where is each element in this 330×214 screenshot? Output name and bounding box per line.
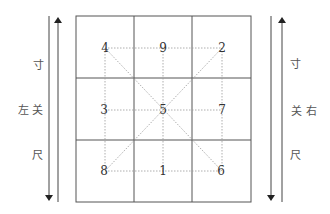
right-guan-label: 关 bbox=[291, 104, 302, 118]
cell-number: 6 bbox=[217, 164, 225, 178]
cell-number: 7 bbox=[218, 103, 226, 117]
right-cun-label: 寸 bbox=[290, 57, 301, 71]
cell-number: 1 bbox=[159, 164, 167, 178]
left-cun-label: 寸 bbox=[33, 58, 44, 72]
left-chi-label: 尺 bbox=[32, 149, 43, 162]
left-guan-label: 关 bbox=[32, 103, 43, 117]
cell-number: 3 bbox=[100, 103, 108, 117]
left-side-label: 左 bbox=[18, 104, 29, 117]
cell-number: 5 bbox=[159, 103, 167, 117]
lo-shu-pulse-diagram: 4 9 2 3 5 7 8 1 6 寸 左 关 尺 寸 关 右 尺 bbox=[0, 0, 330, 214]
right-side-label: 右 bbox=[306, 104, 317, 118]
cell-number: 2 bbox=[218, 41, 226, 55]
cell-number: 4 bbox=[101, 41, 109, 55]
cell-number: 9 bbox=[159, 41, 167, 55]
cell-number: 8 bbox=[100, 164, 108, 178]
right-chi-label: 尺 bbox=[290, 149, 301, 162]
